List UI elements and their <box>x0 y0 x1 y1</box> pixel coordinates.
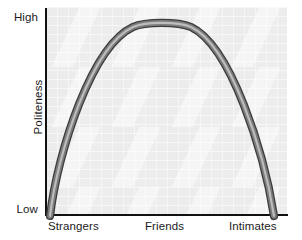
plot-panel <box>46 7 287 215</box>
x-tick-strangers: Strangers <box>48 220 99 232</box>
y-axis-line <box>45 8 47 216</box>
y-tick-low: Low <box>17 203 38 215</box>
x-tick-intimates: Intimates <box>229 220 277 232</box>
x-axis-line <box>45 214 288 216</box>
x-tick-friends: Friends <box>145 220 184 232</box>
y-tick-high: High <box>14 11 38 23</box>
politeness-curve-figure: High Low Politeness Strangers Friends In… <box>0 0 302 240</box>
y-axis-title: Politeness <box>32 47 44 167</box>
